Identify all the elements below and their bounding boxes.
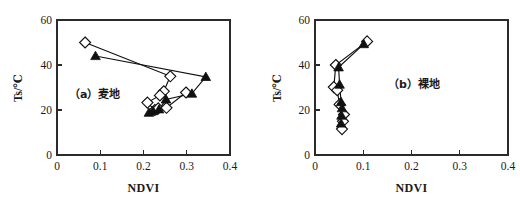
panel-b-y-tick-labels: 0 20 40 60 [299,14,311,161]
panel-a-xtick-0: 0 [54,160,60,172]
panel-b-caption: （b）裸地 [388,77,440,91]
panel-a-xtick-3: 0.3 [180,160,195,172]
panel-a-x-tick-labels: 0 0.1 0.2 0.3 0.4 [54,160,237,172]
panel-b-y-axis-title: Ts/℃ [271,74,283,102]
panel-b-xtick-2: 0.2 [404,160,419,172]
panel-b-xtick-3: 0.3 [453,160,468,172]
panel-a-xtick-4: 0.4 [223,160,238,172]
panel-b-ytick-0: 0 [304,149,310,161]
chart-panel-b: 0 0.1 0.2 0.3 0.4 0 20 40 60 NDVI Ts/℃ （… [260,0,520,210]
panel-a-y-ticks [57,65,62,110]
figure-root: 0 0.1 0.2 0.3 0.4 0 20 40 60 NDVI Ts/℃ （… [0,0,520,210]
panel-b-x-tick-labels: 0 0.1 0.2 0.3 0.4 [312,160,515,172]
panel-b-x-ticks [363,150,460,155]
panel-a-ytick-0: 0 [46,149,52,161]
panel-a-xtick-2: 0.2 [136,160,151,172]
chart-panel-a: 0 0.1 0.2 0.3 0.4 0 20 40 60 NDVI Ts/℃ （… [0,0,260,210]
panel-a-diamond-markers [80,37,192,116]
panel-a-ytick-2: 40 [41,59,53,71]
panel-b-ytick-2: 40 [299,59,311,71]
panel-a-ytick-3: 60 [41,14,53,26]
panel-b-ytick-3: 60 [299,14,311,26]
panel-b-xtick-0: 0 [312,160,318,172]
panel-a-x-ticks [100,150,187,155]
panel-a-series [80,37,211,116]
panel-b-xtick-4: 0.4 [501,160,516,172]
panel-b-plot: 0 0.1 0.2 0.3 0.4 0 20 40 60 NDVI Ts/℃ （… [260,0,520,210]
panel-b-x-axis-title: NDVI [396,181,428,195]
panel-a-caption: （a）麦地 [69,87,120,101]
panel-b-xtick-1: 0.1 [356,160,371,172]
panel-a-ytick-1: 20 [41,104,53,116]
panel-b-ytick-1: 20 [299,104,311,116]
panel-a-y-axis-title: Ts/℃ [12,74,24,102]
panel-b-y-ticks [315,65,320,110]
panel-a-plot: 0 0.1 0.2 0.3 0.4 0 20 40 60 NDVI Ts/℃ （… [0,0,260,210]
panel-a-xtick-1: 0.1 [93,160,108,172]
panel-b-series [328,36,372,135]
panel-a-x-axis-title: NDVI [128,181,160,195]
panel-a-y-tick-labels: 0 20 40 60 [41,14,53,161]
panel-b-diamond-markers [328,36,372,135]
